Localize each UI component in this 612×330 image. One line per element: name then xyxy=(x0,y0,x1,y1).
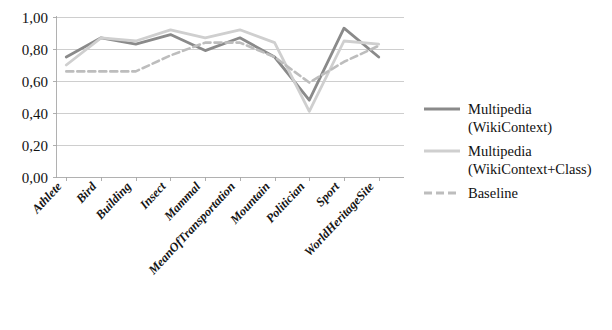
legend-label: Multipedia xyxy=(468,101,532,117)
x-category-label: Sport xyxy=(313,179,343,209)
line-chart: 0,000,200,400,600,801,00 AthleteBirdBuil… xyxy=(0,0,612,330)
x-category-label: Insect xyxy=(136,179,169,213)
x-axis-category-labels: AthleteBirdBuildingInsectMammalMeanOfTra… xyxy=(29,179,378,278)
legend-label: Multipedia xyxy=(468,143,532,159)
legend-label-line2: (WikiContext+Class) xyxy=(468,161,592,178)
y-tick-label: 0,20 xyxy=(22,138,48,154)
y-tick-label: 1,00 xyxy=(22,10,48,26)
y-tick-label: 0,60 xyxy=(22,74,48,90)
y-axis-tick-labels: 0,000,200,400,600,801,00 xyxy=(22,10,48,186)
series-paths-group xyxy=(66,28,378,111)
y-tick-label: 0,00 xyxy=(22,170,48,186)
legend-label-line2: (WikiContext) xyxy=(468,119,552,136)
y-tick-label: 0,40 xyxy=(22,106,48,122)
legend-label: Baseline xyxy=(468,185,518,201)
legend: Multipedia(WikiContext)Multipedia(WikiCo… xyxy=(424,101,592,201)
x-category-label: Building xyxy=(92,179,134,222)
chart-figure: 0,000,200,400,600,801,00 AthleteBirdBuil… xyxy=(0,0,612,330)
y-tick-label: 0,80 xyxy=(22,42,48,58)
gridlines-group xyxy=(57,18,404,146)
x-category-label: Bird xyxy=(73,179,100,207)
